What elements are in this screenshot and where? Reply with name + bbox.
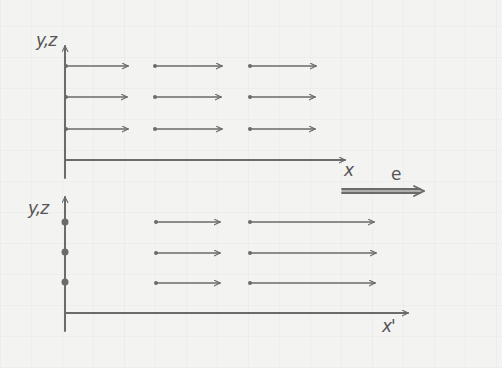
arrow-tail-dot (248, 251, 252, 255)
axis-charge-dot (62, 219, 69, 226)
axis-charge-dot (62, 249, 69, 256)
arrow-tail-dot (154, 281, 158, 285)
top-vertical-axis-label: y,z (36, 32, 56, 49)
arrow-tail-dot (154, 251, 158, 255)
arrow-tail-dot (248, 95, 252, 99)
arrow-tail-dot (64, 95, 68, 99)
bottom-vertical-axis-label: y,z (28, 200, 48, 217)
arrow-tail-dot (248, 281, 252, 285)
arrow-tail-dot (248, 64, 252, 68)
field-vector-label: e (391, 166, 400, 183)
bottom-panel (62, 197, 409, 331)
arrow-tail-dot (153, 127, 157, 131)
arrow-tail-dot (248, 127, 252, 131)
arrow-tail-dot (154, 220, 158, 224)
arrow-tail-dot (64, 64, 68, 68)
arrow-tail-dot (64, 127, 68, 131)
axis-charge-dot (62, 279, 69, 286)
top-horizontal-axis-label: x (344, 162, 353, 179)
field-vector-e (342, 189, 424, 193)
top-panel (64, 46, 345, 178)
arrow-tail-dot (153, 64, 157, 68)
bottom-horizontal-axis-label: x' (382, 318, 395, 335)
vector-field-drawing (0, 0, 502, 368)
arrow-tail-dot (153, 95, 157, 99)
arrow-tail-dot (248, 220, 252, 224)
diagram-canvas: y,z x e y,z x' (0, 0, 502, 368)
